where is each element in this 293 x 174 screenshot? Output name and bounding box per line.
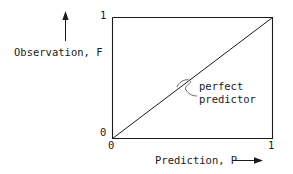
x-axis-tick-min: 0 xyxy=(108,140,114,151)
x-axis-label: Prediction, P xyxy=(155,155,237,166)
perfect-predictor-line xyxy=(113,18,273,139)
plot-graphics xyxy=(0,0,293,174)
y-axis-label: Observation, F xyxy=(14,47,103,58)
reliability-diagram-figure: Observation, F Prediction, P 1 0 0 1 per… xyxy=(0,0,293,174)
right-arrow-icon xyxy=(234,157,263,163)
annotation-label-line2: predictor xyxy=(199,94,256,105)
y-axis-tick-max: 1 xyxy=(100,10,106,21)
y-axis-tick-min: 0 xyxy=(100,127,106,138)
annotation-label-line1: perfect xyxy=(199,81,243,92)
x-axis-tick-max: 1 xyxy=(268,140,274,151)
up-arrow-icon xyxy=(62,11,68,41)
